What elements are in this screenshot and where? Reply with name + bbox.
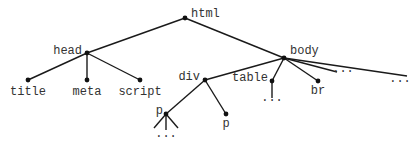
node-label-meta: meta [73,85,102,99]
edge-p1-child-2 [166,114,178,128]
node-label-table: table [232,71,268,85]
edge-html-body [185,18,284,58]
node-script [138,78,143,83]
tree-labels: htmlheadbodytitlemetascriptdivtablebr...… [10,7,411,141]
node-label-script: script [118,85,161,99]
node-label-p1_more: ... [155,127,177,141]
node-html [183,16,188,21]
node-p1 [164,112,169,117]
edge-head-script [87,53,140,80]
edge-div-p1 [166,80,205,114]
node-label-html: html [191,7,220,21]
node-label-div: div [178,70,200,84]
node-label-title: title [10,85,46,99]
node-label-head: head [53,44,82,58]
edge-html-head [87,18,185,53]
edge-div-p2 [205,80,226,114]
edge-body-br [284,58,318,81]
node-p2 [224,112,229,117]
node-label-table_more: ... [261,91,283,105]
node-table [270,79,275,84]
node-label-body: body [290,44,319,58]
node-label-p2: p [222,117,229,131]
node-meta [85,78,90,83]
node-title [26,78,31,83]
node-head [85,51,90,56]
node-div [203,78,208,83]
dom-tree-diagram: htmlheadbodytitlemetascriptdivtablebr...… [0,0,414,142]
tree-canvas: htmlheadbodytitlemetascriptdivtablebr...… [0,0,414,142]
node-br [316,79,321,84]
node-label-br: br [311,84,325,98]
node-label-p1: p [156,104,163,118]
node-label-more1: ... [332,62,354,76]
node-label-more2: ... [389,72,411,86]
node-body [282,56,287,61]
